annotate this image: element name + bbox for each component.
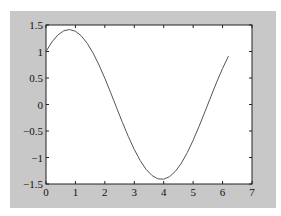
x-tick-label: 0 bbox=[43, 186, 49, 198]
x-tick-label: 5 bbox=[190, 186, 196, 198]
x-tick-label: 6 bbox=[220, 186, 226, 198]
x-tick-label: 4 bbox=[161, 186, 167, 198]
y-tick-label: 0.5 bbox=[29, 72, 43, 84]
x-tick-label: 1 bbox=[73, 186, 79, 198]
x-tick-label: 3 bbox=[132, 186, 138, 198]
x-tick-label: 2 bbox=[102, 186, 108, 198]
y-tick-label: 1 bbox=[38, 46, 44, 58]
x-tick-label: 7 bbox=[249, 186, 255, 198]
y-tick-label: 1.5 bbox=[29, 19, 43, 31]
y-tick-label: 0 bbox=[38, 99, 44, 111]
axes-area bbox=[46, 25, 252, 184]
line-chart: 01234567 1.510.50−0.5−1−1.5 bbox=[0, 0, 281, 216]
y-tick-label: −1.5 bbox=[23, 178, 43, 190]
y-tick-label: −1 bbox=[31, 152, 43, 164]
y-tick-label: −0.5 bbox=[23, 125, 43, 137]
